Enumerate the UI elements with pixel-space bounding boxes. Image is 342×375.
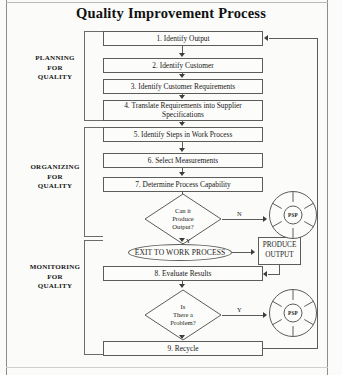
connector-produce-output-left — [268, 274, 280, 275]
decision-2-line1: Is — [170, 303, 195, 311]
page-frame-top-edge — [6, 2, 328, 3]
connector-7-to-decision-1 — [182, 192, 183, 194]
step-box-5[interactable]: 5. Identify Steps in Work Process — [103, 127, 263, 142]
arrow-6-to-7 — [179, 172, 185, 176]
step-box-4[interactable]: 4. Translate Requirements into Supplier … — [103, 100, 263, 121]
page-frame-right-edge — [327, 0, 328, 375]
branch-label-decision-1-yes: Y — [186, 237, 191, 244]
arrow-feedback-to-step-1 — [264, 35, 268, 41]
bracket-monitoring — [84, 240, 103, 355]
step-box-4-line2: Specifications — [162, 111, 204, 120]
page-frame-left-edge — [6, 0, 7, 375]
diagram-title: Quality Improvement Process — [0, 5, 342, 22]
decision-is-there-a-problem-text: Is There a Problem? — [144, 289, 222, 341]
psp-wheel-bottom-label: PSP — [268, 288, 318, 338]
arrow-decision-2-to-step-9 — [179, 335, 185, 339]
arrow-4-to-5 — [179, 122, 185, 126]
decision-1-line3: Output? — [172, 223, 194, 231]
decision-2-line3: Problem? — [170, 319, 195, 327]
psp-wheel-top-label: PSP — [268, 190, 318, 240]
decision-1-line2: Produce — [172, 215, 194, 223]
step-box-3[interactable]: 3. Identify Customer Requirements — [103, 79, 263, 94]
branch-label-decision-1-no: N — [237, 210, 242, 217]
connector-feedback-vertical — [317, 38, 318, 349]
connector-recycle-right — [263, 348, 318, 349]
decision-2-line2: There a — [170, 311, 195, 319]
connector-decision-2-yes-to-psp — [222, 315, 266, 316]
step-box-9[interactable]: 9. Recycle — [103, 341, 263, 356]
connector-produce-output-down — [279, 265, 280, 274]
step-box-6[interactable]: 6. Select Measurements — [103, 153, 263, 168]
produce-output-line2: OUTPUT — [265, 251, 293, 261]
arrow-decision-1-yes — [179, 238, 185, 242]
arrow-produce-output-to-step-8 — [263, 271, 267, 277]
produce-output-line1: PRODUCE — [263, 241, 297, 251]
bracket-planning — [84, 31, 103, 121]
psp-wheel-bottom[interactable]: PSP — [268, 288, 318, 338]
quality-improvement-process-diagram: Quality Improvement Process PLANNING FOR… — [0, 0, 342, 375]
produce-output-box[interactable]: PRODUCE OUTPUT — [258, 237, 301, 265]
connector-decision-1-no-to-psp — [222, 219, 266, 220]
step-box-8[interactable]: 8. Evaluate Results — [103, 266, 263, 281]
step-box-1[interactable]: 1. Identify Output — [103, 31, 263, 46]
arrow-5-to-6 — [179, 148, 185, 152]
step-box-2[interactable]: 2. Identify Customer — [103, 58, 263, 73]
step-box-7[interactable]: 7. Determine Process Capability — [103, 177, 263, 192]
arrow-decision-1-no — [263, 216, 267, 222]
decision-1-line1: Can it — [172, 207, 194, 215]
connector-feedback-to-step-1 — [269, 38, 318, 39]
connector-exit-to-produce-output — [232, 252, 252, 253]
arrow-3-to-4 — [179, 95, 185, 99]
arrow-8-to-decision-2 — [179, 284, 185, 288]
arrow-2-to-3 — [179, 74, 185, 78]
psp-wheel-top[interactable]: PSP — [268, 190, 318, 240]
arrow-exit-to-produce-output — [251, 249, 255, 255]
branch-label-decision-2-yes: Y — [237, 306, 242, 313]
arrow-1-to-2 — [179, 53, 185, 57]
bracket-organizing — [84, 127, 103, 237]
decision-is-there-a-problem[interactable]: Is There a Problem? — [144, 289, 222, 341]
page-frame-bottom-edge — [6, 367, 328, 368]
arrow-decision-2-yes — [263, 312, 267, 318]
exit-to-work-process-terminal[interactable]: EXIT TO WORK PROCESS — [128, 244, 232, 261]
